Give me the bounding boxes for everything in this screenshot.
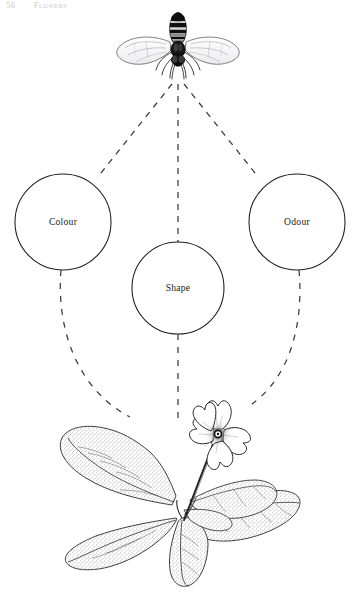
link-hoverfly-to-colour (97, 84, 172, 178)
link-odour-to-flower (252, 270, 300, 404)
hoverfly-head (171, 54, 184, 66)
hoverfly-wing-right (185, 37, 239, 64)
link-hoverfly-to-odour (184, 84, 259, 178)
cue-links-upper (97, 84, 259, 242)
cue-node-shape[interactable]: Shape (132, 242, 224, 334)
primrose-leaf-bottom (169, 517, 208, 586)
primrose-leaf-upper-left (60, 426, 176, 505)
figure-root: 56Flowers (0, 0, 355, 600)
cue-node-colour[interactable]: Colour (15, 174, 111, 270)
primrose-leaves (60, 426, 300, 586)
hoverfly-abdomen (170, 13, 187, 46)
primrose-flower (189, 401, 250, 470)
primrose-leaf-left (65, 518, 177, 570)
hoverfly-wing-left (117, 37, 171, 64)
cue-node-odour[interactable]: Odour (249, 174, 345, 270)
cue-label-shape: Shape (166, 282, 191, 293)
cue-label-colour: Colour (49, 216, 78, 227)
hoverfly-illustration (117, 13, 239, 80)
link-colour-to-flower (60, 270, 130, 417)
cue-label-odour: Odour (284, 216, 310, 227)
primrose-plant-illustration (60, 401, 300, 587)
pollination-cue-diagram: Colour Shape Odour (0, 0, 355, 600)
